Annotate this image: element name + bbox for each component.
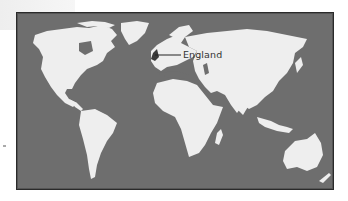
- margin-mark: [3, 145, 6, 147]
- world-map-graphic: [17, 13, 333, 189]
- world-map: England: [16, 12, 334, 190]
- japan: [295, 57, 303, 73]
- australia: [283, 133, 323, 171]
- indonesia: [257, 117, 293, 133]
- north-america: [33, 25, 117, 107]
- south-america: [79, 109, 117, 179]
- mediterranean: [157, 71, 189, 79]
- new-zealand: [319, 173, 331, 183]
- madagascar: [215, 129, 223, 145]
- england-label: England: [183, 49, 222, 60]
- greenland: [121, 21, 149, 45]
